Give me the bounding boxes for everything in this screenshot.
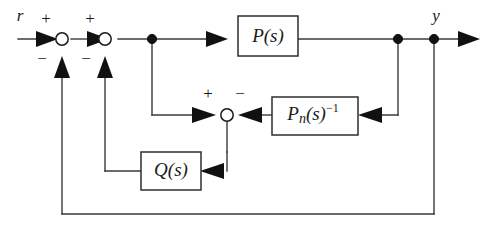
arrowhead-into-nominal-inverse <box>358 107 382 123</box>
plant-block[interactable]: P(s) <box>238 16 298 56</box>
q-feedback-wires <box>105 62 141 171</box>
q-filter-block-label: Q(s) <box>154 159 188 181</box>
sign-minus-sum-inner: − <box>81 49 91 68</box>
signal-label-y: y <box>430 6 440 25</box>
arrowhead-into-sum-outer-minus <box>54 56 70 78</box>
sign-plus-sum-outer: + <box>41 9 51 28</box>
junction-dot-output-tap <box>429 34 438 43</box>
junction-dot-observer-tap <box>393 34 402 43</box>
arrowhead-into-qfilter <box>200 163 224 179</box>
summing-junction-outer[interactable] <box>56 33 68 45</box>
plant-block-label: P(s) <box>251 25 284 47</box>
sign-plus-sum-inner: + <box>85 9 95 28</box>
arrowhead-into-observer-sum-plus <box>192 107 216 123</box>
summing-junction-observer[interactable] <box>221 109 233 121</box>
arrowhead-into-sum-outer <box>36 31 58 47</box>
summing-junction-inner[interactable] <box>99 33 111 45</box>
arrowhead-into-observer-sum-minus <box>238 107 262 123</box>
outer-feedback-wires <box>62 39 434 214</box>
sign-minus-sum-observer: − <box>235 84 245 103</box>
sign-minus-sum-outer: − <box>37 49 47 68</box>
nominal-plant-inverse-block[interactable]: Pn(s)−1 <box>272 97 358 135</box>
control-block-diagram: P(s) Pn(s)−1 Q(s) + − + − + − r y <box>0 0 498 236</box>
sign-plus-sum-observer: + <box>203 84 213 103</box>
junction-dot-plant-input <box>147 34 156 43</box>
q-filter-block[interactable]: Q(s) <box>141 152 201 190</box>
block-diagram-container: P(s) Pn(s)−1 Q(s) + − + − + − r y <box>0 0 498 236</box>
arrowhead-output-y <box>458 31 480 47</box>
arrowhead-into-sum-inner-minus <box>97 56 113 78</box>
signal-label-r: r <box>17 6 24 25</box>
arrowhead-into-plant <box>206 31 228 47</box>
